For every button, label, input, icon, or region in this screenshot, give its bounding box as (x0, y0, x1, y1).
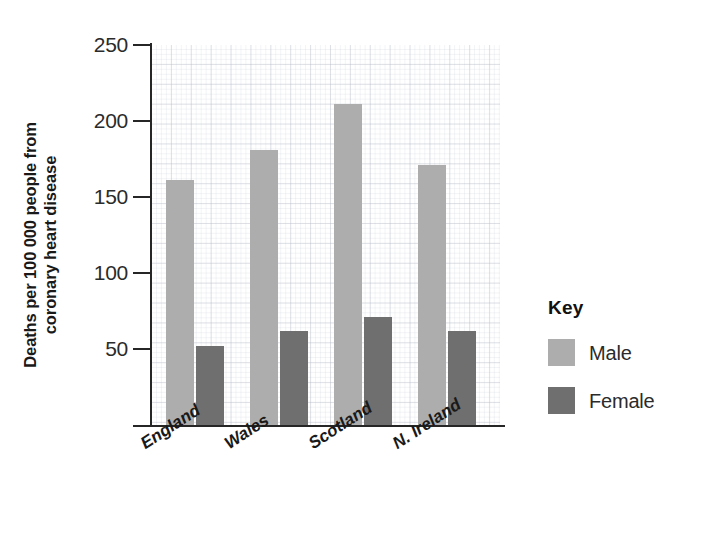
legend-entry-male: Male (548, 339, 688, 366)
y-tick-label: 150 (74, 186, 128, 207)
y-axis-title-line-2: coronary heart disease (40, 156, 60, 334)
y-tick-label: 200 (74, 110, 128, 131)
legend-swatch-male (548, 339, 575, 366)
legend-label: Male (589, 343, 632, 363)
y-axis-line (150, 43, 152, 427)
bar-scotland-male (334, 104, 362, 425)
bar-england-male (166, 180, 194, 425)
legend-entry-female: Female (548, 387, 688, 414)
y-tick-label: 250 (74, 34, 128, 55)
y-axis-title: Deaths per 100 000 people from coronary … (17, 45, 63, 445)
legend: Key MaleFemale (548, 297, 688, 435)
bar-wales-female (280, 331, 308, 425)
legend-entries: MaleFemale (548, 339, 688, 414)
legend-swatch-female (548, 387, 575, 414)
bar-n-ireland-male (418, 165, 446, 425)
y-axis-title-line-1: Deaths per 100 000 people from (20, 122, 40, 368)
plot-area (152, 45, 500, 425)
y-tick-label: 50 (74, 338, 128, 359)
y-tick-label: 100 (74, 262, 128, 283)
bar-wales-male (250, 150, 278, 425)
legend-label: Female (589, 391, 655, 411)
bar-chart-figure: Deaths per 100 000 people from coronary … (0, 0, 704, 545)
legend-title: Key (548, 297, 688, 319)
